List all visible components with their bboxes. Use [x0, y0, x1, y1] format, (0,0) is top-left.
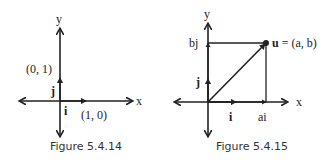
point-1-0-label: (1, 0): [81, 108, 107, 122]
j-label: j: [195, 75, 200, 89]
figure-canvas: y x (0, 1) j i (1, 0) Figure 5.4.14 y x …: [0, 0, 334, 164]
x-axis-label: x: [296, 95, 302, 109]
i-label: i: [229, 110, 233, 124]
u-definition: = (a, b): [279, 36, 317, 50]
x-axis-label: x: [136, 94, 142, 108]
u-label: u = (a, b): [272, 36, 317, 50]
y-axis-label: y: [56, 12, 62, 26]
point-u: [263, 40, 269, 46]
vector-u: [208, 44, 265, 102]
ai-label: ai: [258, 110, 267, 124]
figure-5-4-14: y x (0, 1) j i (1, 0) Figure 5.4.14: [20, 12, 142, 153]
point-0-1-label: (0, 1): [26, 62, 52, 76]
figure-caption: Figure 5.4.15: [216, 140, 288, 153]
i-label: i: [64, 104, 68, 118]
y-axis-label: y: [204, 7, 210, 21]
bj-label: bj: [189, 36, 198, 50]
figure-caption: Figure 5.4.14: [50, 140, 122, 153]
j-label: j: [50, 84, 55, 98]
figure-5-4-15: y x bj j i ai u = (a, b) Figure 5.4.15: [175, 7, 317, 153]
